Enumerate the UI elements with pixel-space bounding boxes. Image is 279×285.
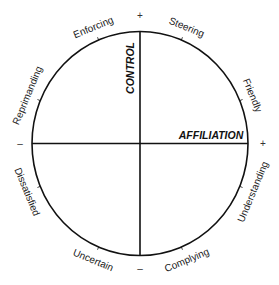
segment-label-reprimanding: Reprimanding: [10, 64, 44, 126]
segment-label-understanding: Understanding: [235, 160, 270, 224]
segment-label-friendly: Friendly: [241, 77, 265, 114]
control-axis-label: CONTROL: [124, 42, 136, 94]
segment-label-complying: Complying: [163, 246, 211, 274]
affiliation-positive-sign: +: [260, 138, 266, 149]
affiliation-negative-sign: –: [17, 138, 23, 149]
affiliation-axis-label: AFFILIATION: [178, 129, 244, 141]
control-positive-sign: +: [137, 10, 143, 21]
control-negative-sign: –: [137, 263, 143, 274]
segment-label-dissatisfied: Dissatisfied: [12, 166, 42, 217]
interpersonal-circumplex-diagram: CONTROL AFFILIATION + – – + FriendlyStee…: [0, 0, 279, 285]
segment-label-steering: Steering: [167, 15, 206, 39]
